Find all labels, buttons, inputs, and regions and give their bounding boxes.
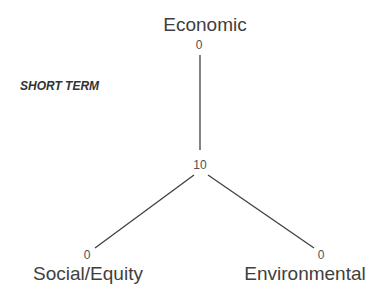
tri-axis-diagram: SHORT TERM Economic 0 10 0 Social/Equity… [0,0,388,307]
environmental-axis-line [208,175,314,248]
diagram-title: SHORT TERM [20,79,99,93]
social-label: Social/Equity [33,263,143,285]
center-value: 10 [193,158,206,172]
environmental-end-value: 0 [318,248,325,262]
social-axis-line [95,175,194,248]
environmental-label: Environmental [244,263,365,285]
economic-label: Economic [163,14,246,36]
economic-end-value: 0 [196,38,203,52]
axis-lines [0,0,388,307]
social-end-value: 0 [84,248,91,262]
